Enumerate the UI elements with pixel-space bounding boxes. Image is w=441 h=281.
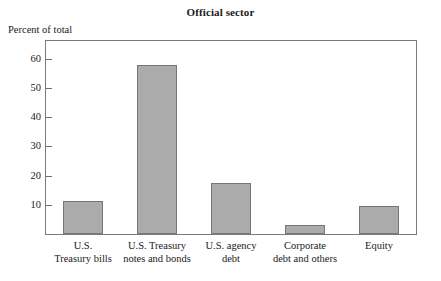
y-tick-label: 30 xyxy=(31,139,42,152)
bar xyxy=(359,206,399,234)
y-tick-mark xyxy=(46,205,52,206)
y-axis-label: Percent of total xyxy=(8,24,72,36)
x-axis-label: Equity xyxy=(325,239,433,252)
y-tick-label: 20 xyxy=(31,169,42,182)
x-axis-label-line: debt and others xyxy=(251,252,359,265)
y-tick-label: 50 xyxy=(31,81,42,94)
chart-figure: Official sector Percent of total 1020304… xyxy=(0,0,441,281)
plot-area: 102030405060 xyxy=(45,40,417,235)
plot-inner: 102030405060 xyxy=(46,41,416,234)
y-tick-mark xyxy=(46,146,52,147)
y-tick-label: 10 xyxy=(31,198,42,211)
x-axis-label-line: Equity xyxy=(325,239,433,252)
bar xyxy=(285,225,325,234)
y-tick-label: 40 xyxy=(31,110,42,123)
y-tick-mark xyxy=(46,59,52,60)
bar xyxy=(63,201,103,234)
bar xyxy=(211,183,251,234)
y-tick-label: 60 xyxy=(31,52,42,65)
y-tick-mark xyxy=(46,117,52,118)
chart-title: Official sector xyxy=(0,6,441,19)
bar xyxy=(137,65,177,234)
y-tick-mark xyxy=(46,88,52,89)
y-tick-mark xyxy=(46,176,52,177)
